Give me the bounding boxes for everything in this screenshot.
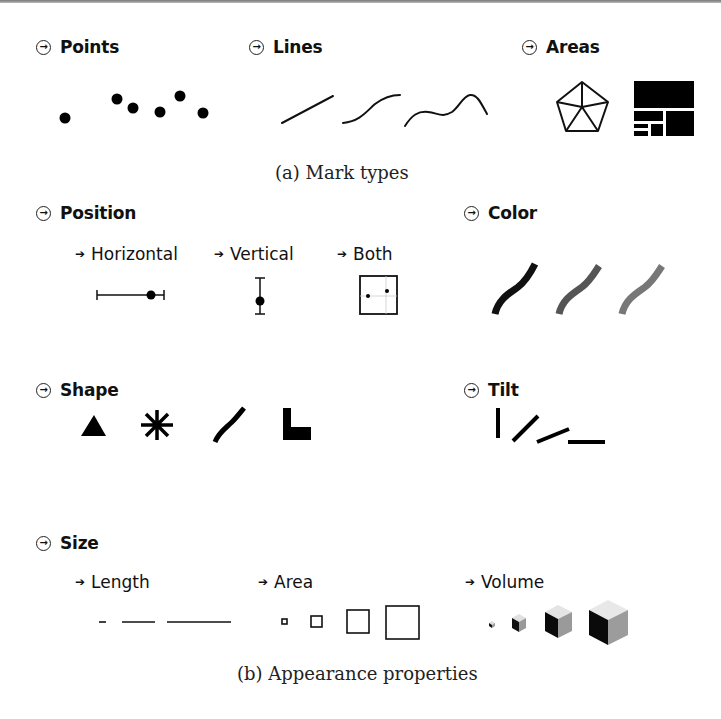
position-marks — [0, 0, 721, 719]
sub-label: Length — [91, 572, 150, 592]
size-length-marks — [0, 0, 721, 719]
lines-marks — [0, 0, 721, 719]
heading-tilt: → Tilt — [464, 380, 519, 400]
heading-size: → Size — [36, 533, 99, 553]
heading-label: Areas — [546, 37, 600, 57]
arrow-icon: ➔ — [258, 575, 268, 589]
color-marks — [0, 0, 721, 719]
arrow-icon: ➔ — [465, 575, 475, 589]
arrow-circle-icon: → — [464, 383, 479, 398]
heading-label: Tilt — [488, 380, 519, 400]
arrow-circle-icon: → — [36, 40, 51, 55]
tilt-marks — [0, 0, 721, 719]
caption-appearance-properties: (b) Appearance properties — [237, 663, 478, 684]
arrow-circle-icon: → — [249, 40, 264, 55]
heading-label: Size — [60, 533, 99, 553]
sub-area: ➔ Area — [258, 572, 313, 592]
sub-horizontal: ➔ Horizontal — [75, 244, 178, 264]
heading-position: → Position — [36, 203, 136, 223]
sub-volume: ➔ Volume — [465, 572, 544, 592]
area-pentagon-mark — [0, 0, 721, 719]
points-marks — [0, 0, 721, 719]
top-border — [0, 0, 721, 3]
caption-mark-types: (a) Mark types — [275, 162, 409, 183]
heading-areas: → Areas — [522, 37, 600, 57]
heading-lines: → Lines — [249, 37, 322, 57]
arrow-icon: ➔ — [214, 247, 224, 261]
heading-label: Shape — [60, 380, 119, 400]
sub-vertical: ➔ Vertical — [214, 244, 294, 264]
size-area-marks — [0, 0, 721, 719]
sub-label: Vertical — [230, 244, 294, 264]
sub-label: Both — [353, 244, 393, 264]
heading-color: → Color — [464, 203, 537, 223]
arrow-circle-icon: → — [36, 536, 51, 551]
area-treemap-mark — [0, 0, 721, 719]
sub-label: Volume — [481, 572, 544, 592]
heading-label: Lines — [273, 37, 322, 57]
shape-marks — [0, 0, 721, 719]
arrow-circle-icon: → — [522, 40, 537, 55]
arrow-icon: ➔ — [337, 247, 347, 261]
size-volume-marks — [0, 0, 721, 719]
heading-points: → Points — [36, 37, 119, 57]
arrow-circle-icon: → — [464, 206, 479, 221]
arrow-circle-icon: → — [36, 206, 51, 221]
sub-length: ➔ Length — [75, 572, 150, 592]
sub-label: Horizontal — [91, 244, 178, 264]
heading-label: Position — [60, 203, 136, 223]
arrow-icon: ➔ — [75, 575, 85, 589]
heading-shape: → Shape — [36, 380, 119, 400]
heading-label: Color — [488, 203, 537, 223]
arrow-icon: ➔ — [75, 247, 85, 261]
sub-label: Area — [274, 572, 313, 592]
arrow-circle-icon: → — [36, 383, 51, 398]
sub-both: ➔ Both — [337, 244, 393, 264]
heading-label: Points — [60, 37, 119, 57]
